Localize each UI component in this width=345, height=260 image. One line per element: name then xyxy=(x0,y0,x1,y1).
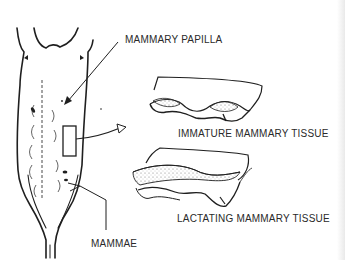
magnify-arrowhead-icon xyxy=(117,124,126,133)
axilla-mark-left xyxy=(24,55,28,60)
mammary-chain-contours xyxy=(30,105,61,197)
label-lactating-tissue: LACTATING MAMMARY TISSUE xyxy=(177,213,330,224)
label-mammae: MAMMAE xyxy=(91,238,137,249)
immature-tissue-illustration xyxy=(150,77,262,121)
mammae-leader xyxy=(80,186,106,230)
axilla-mark-right xyxy=(80,55,84,60)
papilla-leader xyxy=(68,42,118,101)
label-immature-tissue: IMMATURE MAMMARY TISSUE xyxy=(178,128,329,139)
lactating-tissue-illustration xyxy=(133,148,252,206)
nipple-marks xyxy=(30,100,102,181)
body-outline xyxy=(17,28,93,258)
label-mammary-papilla: MAMMARY PAPILLA xyxy=(125,34,222,45)
highlight-box xyxy=(63,126,76,156)
